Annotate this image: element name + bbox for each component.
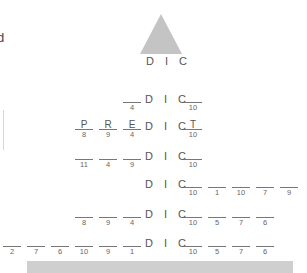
slot-letter <box>123 207 141 217</box>
tree-apex-triangle-icon <box>140 14 182 54</box>
suffix-letter-slot[interactable]: 7 <box>232 206 250 226</box>
slot-letter <box>27 236 45 246</box>
slot-letter <box>232 207 250 217</box>
slot-number: 7 <box>232 247 250 256</box>
slot-number: 6 <box>256 218 274 227</box>
slot-letter <box>208 236 226 246</box>
slot-letter <box>3 236 21 246</box>
slot-number: 5 <box>208 218 226 227</box>
slot-number: 10 <box>75 247 93 256</box>
suffix-letter-slot[interactable]: 6 <box>256 206 274 226</box>
slot-number: 9 <box>280 188 298 197</box>
slot-number: 6 <box>51 247 69 256</box>
prefix-letter-slot[interactable]: 7 <box>27 235 45 255</box>
slot-number: 4 <box>99 160 117 169</box>
slot-letter <box>256 177 274 187</box>
suffix-letter-slot[interactable]: 6 <box>256 235 274 255</box>
slot-letter <box>51 236 69 246</box>
slot-letter <box>75 207 93 217</box>
prefix-letter-slot[interactable]: 10 <box>75 235 93 255</box>
suffix-letter-slot[interactable]: 9 <box>280 176 298 196</box>
slot-letter <box>99 236 117 246</box>
prefix-letter-slot[interactable]: 11 <box>75 148 93 168</box>
slot-letter: R <box>99 119 117 129</box>
slot-letter <box>75 149 93 159</box>
suffix-letter-slot[interactable]: 7 <box>256 176 274 196</box>
slot-number: 1 <box>208 188 226 197</box>
prefix-letter-slot[interactable]: 9 <box>123 148 141 168</box>
slot-letter <box>123 236 141 246</box>
slot-number: 10 <box>184 218 202 227</box>
slot-number: 10 <box>184 130 202 139</box>
suffix-letter-slot[interactable]: T10 <box>184 118 202 138</box>
slot-number: 2 <box>3 247 21 256</box>
bottom-bar <box>27 261 293 273</box>
slot-number: 8 <box>75 130 93 139</box>
suffix-letter-slot[interactable]: 5 <box>208 206 226 226</box>
suffix-letter-slot[interactable]: 1 <box>208 176 226 196</box>
prefix-letter-slot[interactable]: 1 <box>123 235 141 255</box>
slot-number: 8 <box>75 218 93 227</box>
slot-number: 10 <box>232 188 250 197</box>
slot-number: 4 <box>123 218 141 227</box>
slot-letter <box>99 149 117 159</box>
slot-letter <box>123 92 141 102</box>
slot-letter <box>280 177 298 187</box>
suffix-letter-slot[interactable]: 7 <box>232 235 250 255</box>
root-morpheme: D I C <box>146 55 191 67</box>
slot-number: 6 <box>256 247 274 256</box>
slot-letter <box>256 207 274 217</box>
slot-number: 5 <box>208 247 226 256</box>
prefix-letter-slot[interactable]: 8 <box>75 206 93 226</box>
prefix-letter-slot[interactable]: 4 <box>123 91 141 111</box>
suffix-letter-slot[interactable]: 10 <box>184 235 202 255</box>
slot-number: 1 <box>123 247 141 256</box>
slot-number: 4 <box>123 130 141 139</box>
suffix-letter-slot[interactable]: 10 <box>184 148 202 168</box>
slot-letter: E <box>123 119 141 129</box>
slot-letter <box>184 177 202 187</box>
prefix-letter-slot[interactable]: P8 <box>75 118 93 138</box>
slot-number: 10 <box>184 247 202 256</box>
slot-number: 9 <box>99 247 117 256</box>
slot-letter <box>99 207 117 217</box>
slot-number: 10 <box>184 103 202 112</box>
slot-letter: T <box>184 119 202 129</box>
slot-number: 9 <box>99 130 117 139</box>
slot-letter <box>232 177 250 187</box>
slot-number: 7 <box>232 218 250 227</box>
prefix-letter-slot[interactable]: 4 <box>99 148 117 168</box>
prefix-letter-slot[interactable]: E4 <box>123 118 141 138</box>
slot-letter <box>232 236 250 246</box>
edge-divider <box>3 110 4 150</box>
slot-number: 4 <box>123 103 141 112</box>
slot-number: 10 <box>184 160 202 169</box>
prefix-letter-slot[interactable]: 9 <box>99 206 117 226</box>
slot-letter: P <box>75 119 93 129</box>
slot-letter <box>208 207 226 217</box>
suffix-letter-slot[interactable]: 5 <box>208 235 226 255</box>
suffix-letter-slot[interactable]: 10 <box>184 176 202 196</box>
prefix-letter-slot[interactable]: R9 <box>99 118 117 138</box>
slot-number: 11 <box>75 160 93 169</box>
suffix-letter-slot[interactable]: 10 <box>184 206 202 226</box>
slot-number: 10 <box>184 188 202 197</box>
prefix-letter-slot[interactable]: 2 <box>3 235 21 255</box>
slot-number: 7 <box>27 247 45 256</box>
suffix-letter-slot[interactable]: 10 <box>232 176 250 196</box>
suffix-letter-slot[interactable]: 10 <box>184 91 202 111</box>
slot-letter <box>75 236 93 246</box>
slot-number: 7 <box>256 188 274 197</box>
partial-edge-letter: d <box>0 30 4 45</box>
slot-letter <box>184 149 202 159</box>
prefix-letter-slot[interactable]: 4 <box>123 206 141 226</box>
slot-number: 9 <box>99 218 117 227</box>
prefix-letter-slot[interactable]: 9 <box>99 235 117 255</box>
slot-letter <box>184 92 202 102</box>
slot-number: 9 <box>123 160 141 169</box>
slot-letter <box>184 207 202 217</box>
slot-letter <box>123 149 141 159</box>
slot-letter <box>256 236 274 246</box>
prefix-letter-slot[interactable]: 6 <box>51 235 69 255</box>
slot-letter <box>184 236 202 246</box>
